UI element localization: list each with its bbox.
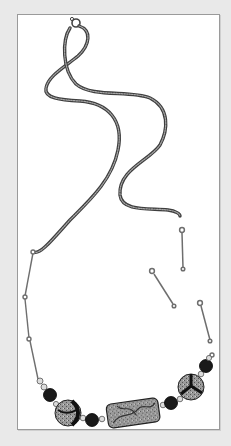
tube-patterned-bead: [106, 397, 161, 428]
black-bead: [44, 389, 57, 402]
round-patterned-bead-right: [178, 374, 204, 400]
eye-pin-link: [23, 250, 38, 379]
spacer-bead: [37, 378, 43, 384]
necklace-illustration: [0, 0, 231, 446]
black-bead: [200, 360, 213, 373]
spacer-bead: [206, 355, 211, 360]
black-bead: [86, 414, 99, 427]
spacer-bead: [177, 396, 183, 402]
chain: [34, 26, 180, 252]
spacer-bead: [80, 415, 86, 421]
spacer-bead: [41, 384, 47, 390]
spacer-bead: [99, 416, 105, 422]
round-patterned-bead-left: [55, 400, 81, 426]
loose-eye-pin-vertical: [180, 228, 185, 271]
loose-eye-pin-right: [198, 301, 212, 343]
loose-eye-pin-diagonal: [150, 269, 176, 308]
black-bead: [165, 397, 178, 410]
bead-strand: [37, 355, 213, 428]
